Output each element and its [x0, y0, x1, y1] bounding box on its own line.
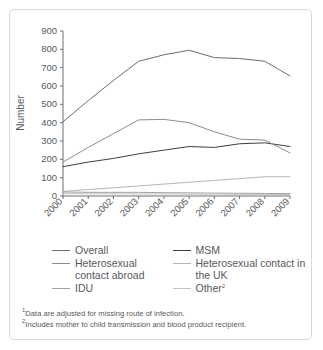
legend-swatch-heterosexual-uk — [173, 263, 191, 264]
x-tick-label: 2009 — [269, 196, 292, 219]
legend-swatch-overall — [52, 250, 70, 251]
legend-swatch-other — [173, 288, 191, 289]
legend-row: Overall MSM — [10, 244, 313, 257]
chart-plot-area: 0100200300400500600700800900 20002001200… — [0, 0, 323, 230]
y-tick-label: 700 — [41, 62, 57, 73]
series-line-overall — [63, 50, 290, 122]
y-tick-label: 300 — [41, 135, 57, 146]
legend-item-heterosexual-uk[interactable]: Heterosexual contact in the UK — [162, 257, 314, 282]
legend-label-msm: MSM — [196, 244, 221, 257]
line-chart-svg: 0100200300400500600700800900 20002001200… — [0, 0, 323, 230]
legend-swatch-heterosexual-abroad — [52, 263, 70, 264]
legend-item-overall[interactable]: Overall — [10, 244, 162, 257]
x-tick-label: 2000 — [42, 196, 65, 219]
chart-legend: Overall MSM Heterosexual contact abroad … — [10, 244, 313, 294]
legend-label-idu: IDU — [75, 282, 93, 295]
legend-label-heterosexual-abroad: Heterosexual contact abroad — [75, 257, 162, 282]
x-tick-label: 2006 — [193, 196, 216, 219]
legend-label-other: Other2 — [196, 282, 226, 295]
y-tick-label: 900 — [41, 25, 57, 36]
series-line-msm — [63, 143, 290, 167]
x-tick-label: 2003 — [117, 196, 140, 219]
x-tick-label: 2001 — [67, 196, 90, 219]
legend-item-msm[interactable]: MSM — [162, 244, 314, 257]
footnote-2: 2Includes mother to child transmission a… — [22, 320, 307, 331]
x-tick-label: 2004 — [143, 196, 166, 219]
legend-item-heterosexual-abroad[interactable]: Heterosexual contact abroad — [10, 257, 162, 282]
legend-item-other[interactable]: Other2 — [162, 282, 314, 295]
footnote-1: 1Data are adjusted for missing route of … — [22, 309, 307, 320]
legend-row: IDU Other2 — [10, 282, 313, 295]
series-line-heterosexual-contact-in-the-uk — [63, 177, 290, 192]
figure-footnotes: 1Data are adjusted for missing route of … — [22, 309, 307, 330]
x-tick-label: 2007 — [218, 196, 241, 219]
legend-item-idu[interactable]: IDU — [10, 282, 162, 295]
x-tick-label: 2005 — [168, 196, 191, 219]
x-axis-ticks: 2000200120022003200420052006200720082009 — [42, 196, 292, 219]
legend-label-heterosexual-uk: Heterosexual contact in the UK — [196, 257, 314, 282]
y-tick-label: 400 — [41, 117, 57, 128]
legend-label-overall: Overall — [75, 244, 108, 257]
y-axis-ticks: 0100200300400500600700800900 — [41, 25, 63, 201]
legend-swatch-idu — [52, 288, 70, 289]
footnote-1-text: Data are adjusted for missing route of i… — [25, 309, 184, 318]
legend-swatch-msm — [173, 250, 191, 251]
y-tick-label: 600 — [41, 80, 57, 91]
footnote-2-text: Includes mother to child transmission an… — [25, 320, 246, 329]
legend-row: Heterosexual contact abroad Heterosexual… — [10, 257, 313, 282]
y-tick-label: 500 — [41, 98, 57, 109]
data-series-group — [63, 50, 290, 194]
y-tick-label: 200 — [41, 153, 57, 164]
legend-other-superscript: 2 — [222, 282, 225, 288]
series-line-heterosexual-contact-abroad — [63, 119, 290, 162]
x-tick-label: 2008 — [243, 196, 266, 219]
x-tick-label: 2002 — [92, 196, 115, 219]
y-tick-label: 100 — [41, 172, 57, 183]
y-tick-label: 800 — [41, 43, 57, 54]
y-axis-title: Number — [15, 95, 26, 131]
